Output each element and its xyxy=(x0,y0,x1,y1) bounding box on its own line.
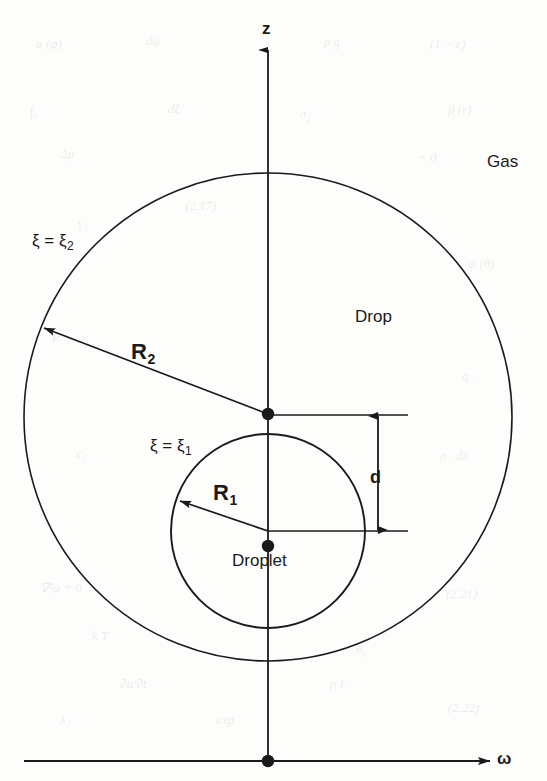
drop-center-dot xyxy=(262,408,274,420)
diagram-svg xyxy=(0,0,547,781)
outer-radius-label-text: R xyxy=(131,339,147,364)
outer-surface-label-subscript: 2 xyxy=(67,239,74,253)
omega-axis-label: ω xyxy=(497,750,511,767)
figure-canvas: α (φ)dφρ g(1 − ε)∫₀dξσ₂β (r)Δμ(2.17)= 0γ… xyxy=(0,0,547,781)
inner-surface-label-subscript: 1 xyxy=(185,444,192,458)
axes-origin-dot xyxy=(262,755,274,767)
inner-radius-label: R1 xyxy=(213,482,237,507)
gas-region-label: Gas xyxy=(487,153,518,170)
outer-radius-arrow xyxy=(44,328,268,414)
inner-surface-label: ξ = ξ1 xyxy=(150,437,192,457)
outer-surface-label: ξ = ξ2 xyxy=(32,232,74,252)
outer-radius-label-subscript: 2 xyxy=(147,351,155,367)
outer-radius-label: R2 xyxy=(131,341,155,366)
offset-distance-label: d xyxy=(370,468,381,486)
droplet-region-label: Droplet xyxy=(232,552,287,569)
inner-radius-label-text: R xyxy=(213,480,229,505)
drop-region-label: Drop xyxy=(355,308,392,325)
z-axis-label: z xyxy=(262,20,271,37)
inner-radius-label-subscript: 1 xyxy=(229,492,237,508)
outer-surface-label-text: ξ = ξ xyxy=(32,231,67,250)
inner-surface-label-text: ξ = ξ xyxy=(150,436,185,455)
